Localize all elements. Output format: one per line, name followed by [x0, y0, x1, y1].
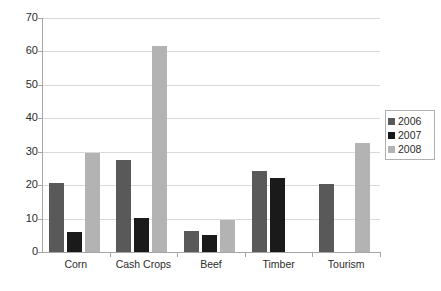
bar-tourism-2008 — [355, 143, 370, 252]
legend-swatch-icon — [388, 118, 395, 125]
bar-corn-2006 — [49, 183, 64, 252]
y-axis-tick — [38, 219, 42, 220]
x-axis-tick — [177, 253, 178, 257]
bar-beef-2006 — [184, 231, 199, 252]
bar-chart: 706050403020100 CornCash CropsBeefTimber… — [0, 0, 441, 291]
x-axis-tick — [312, 253, 313, 257]
y-axis-tick-label: 10 — [4, 213, 38, 224]
x-axis-tick-label: Corn — [42, 258, 110, 270]
bar-beef-2008 — [220, 220, 235, 252]
x-axis-tick-label: Beef — [177, 258, 245, 270]
y-axis-tick — [38, 85, 42, 86]
y-axis-tick-label: 50 — [4, 79, 38, 90]
bar-corn-2008 — [85, 153, 100, 252]
x-axis-tick — [380, 253, 381, 257]
bar-tourism-2006 — [319, 184, 334, 252]
x-axis-tick-label: Tourism — [312, 258, 380, 270]
chart-legend: 200620072008 — [385, 110, 435, 160]
y-axis-tick — [38, 118, 42, 119]
bar-beef-2007 — [202, 235, 217, 252]
y-axis-line — [42, 18, 43, 253]
bar-cash-crops-2006 — [116, 160, 131, 252]
bar-cash-crops-2008 — [152, 46, 167, 252]
y-axis-tick — [38, 185, 42, 186]
y-axis-tick — [38, 152, 42, 153]
bar-timber-2006 — [252, 171, 267, 252]
x-axis-tick-label: Cash Crops — [110, 258, 178, 270]
y-axis-tick-label: 40 — [4, 112, 38, 123]
y-axis-tick — [38, 252, 42, 253]
legend-label: 2006 — [398, 116, 421, 127]
bar-cash-crops-2007 — [134, 218, 149, 252]
gridline — [42, 118, 380, 119]
plot-area — [42, 18, 380, 252]
x-axis-tick — [245, 253, 246, 257]
gridline — [42, 18, 380, 19]
legend-swatch-icon — [388, 132, 395, 139]
y-axis-labels: 706050403020100 — [0, 0, 38, 291]
x-axis-tick — [110, 253, 111, 257]
y-axis-tick-label: 60 — [4, 45, 38, 56]
bar-corn-2007 — [67, 232, 82, 252]
legend-item-2006: 2006 — [388, 114, 431, 128]
y-axis-tick-label: 20 — [4, 179, 38, 190]
x-axis-tick-label: Timber — [245, 258, 313, 270]
y-axis-tick-label: 70 — [4, 12, 38, 23]
x-axis-line — [42, 252, 381, 253]
bar-timber-2007 — [270, 178, 285, 252]
legend-swatch-icon — [388, 146, 395, 153]
y-axis-tick-label: 30 — [4, 146, 38, 157]
legend-item-2007: 2007 — [388, 128, 431, 142]
legend-item-2008: 2008 — [388, 142, 431, 156]
legend-label: 2007 — [398, 130, 421, 141]
legend-label: 2008 — [398, 144, 421, 155]
y-axis-tick-label: 0 — [4, 246, 38, 257]
gridline — [42, 85, 380, 86]
y-axis-tick — [38, 51, 42, 52]
gridline — [42, 51, 380, 52]
y-axis-tick — [38, 18, 42, 19]
